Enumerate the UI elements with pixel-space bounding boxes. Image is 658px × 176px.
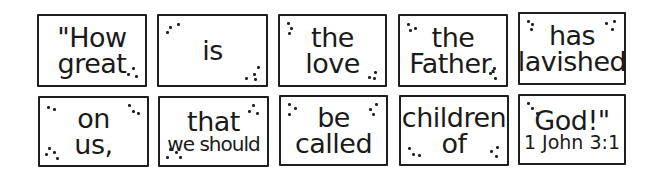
dots-decoration-icon: [485, 65, 501, 81]
dots-decoration-icon: [165, 145, 181, 161]
card-text: the: [432, 25, 475, 51]
dots-decoration-icon: [45, 102, 61, 118]
word-card-6: on us,: [38, 96, 149, 167]
card-text: us,: [74, 132, 112, 158]
dots-decoration-icon: [364, 65, 380, 81]
dots-decoration-icon: [285, 20, 301, 36]
word-card-7: that we should: [158, 96, 269, 167]
card-text: lavished: [518, 49, 626, 75]
card-text: is: [202, 38, 223, 64]
card-text: on: [77, 106, 110, 132]
word-card-8: be called: [279, 95, 388, 166]
card-text: of: [441, 131, 466, 157]
word-card-3: the love: [278, 14, 387, 87]
word-card-1: "How great: [37, 14, 147, 87]
dots-decoration-icon: [245, 65, 261, 81]
verse-reference: 1 John 3:1: [524, 133, 620, 151]
dots-decoration-icon: [286, 101, 302, 117]
dots-decoration-icon: [486, 144, 502, 160]
dots-decoration-icon: [126, 102, 142, 118]
dots-decoration-icon: [246, 102, 262, 118]
card-text: children: [402, 105, 506, 131]
card-text: we should: [167, 135, 259, 154]
dots-decoration-icon: [164, 20, 180, 36]
dots-decoration-icon: [603, 18, 619, 34]
card-text: be: [317, 105, 350, 131]
word-card-2: is: [157, 14, 268, 87]
dots-decoration-icon: [45, 145, 61, 161]
dots-decoration-icon: [406, 144, 422, 160]
card-text: has: [549, 23, 595, 49]
card-text: called: [295, 131, 372, 157]
dots-decoration-icon: [124, 65, 140, 81]
card-text: great: [58, 51, 127, 77]
card-text: "How: [57, 25, 126, 51]
dots-decoration-icon: [525, 100, 541, 116]
card-text: the: [311, 25, 354, 51]
card-text: God!": [534, 108, 609, 134]
card-text: love: [305, 51, 360, 77]
word-card-10: God!" 1 John 3:1: [518, 94, 626, 165]
card-text: Father.: [409, 51, 497, 77]
word-card-9: children of: [399, 95, 509, 166]
dots-decoration-icon: [365, 101, 381, 117]
word-card-4: the Father.: [398, 14, 508, 87]
dots-decoration-icon: [405, 20, 421, 36]
card-text: that: [187, 109, 240, 135]
dots-decoration-icon: [525, 18, 541, 34]
word-card-5: has lavished: [518, 12, 626, 85]
